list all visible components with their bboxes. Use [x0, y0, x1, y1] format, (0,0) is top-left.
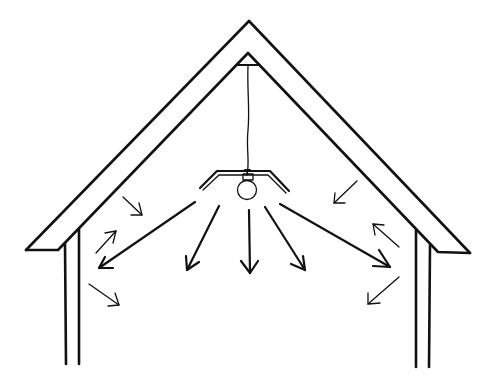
arrow-wall-left-out — [89, 284, 119, 306]
arrow-roof-left-down — [123, 197, 142, 215]
attic-diagram: Line drawing of an attic cross-section w… — [0, 0, 499, 383]
left-wall-arrows — [89, 197, 142, 306]
arrow-roof-right-down — [334, 181, 357, 203]
light-bulb-with-reflector — [200, 170, 289, 200]
arrow-wall-right-out — [368, 277, 399, 304]
diagram-svg — [0, 0, 499, 383]
right-wall — [416, 230, 430, 367]
arrow-mid-right — [265, 207, 305, 270]
left-wall — [65, 229, 79, 364]
arrow-mid-left — [186, 206, 219, 270]
arrow-center — [241, 210, 258, 273]
arrow-wall-right-up — [373, 224, 399, 247]
bulb-icon — [238, 181, 257, 200]
arrow-long-left — [99, 202, 195, 268]
bulb-radiation-arrows — [99, 202, 390, 273]
hanging-cord — [247, 66, 249, 175]
arrow-wall-left-up — [96, 231, 116, 253]
